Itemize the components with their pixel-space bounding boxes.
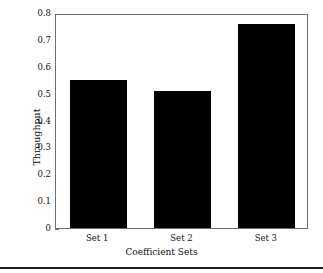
y-tick-label: 0.2 bbox=[37, 169, 51, 179]
bar bbox=[238, 24, 295, 228]
x-tick-label: Set 3 bbox=[224, 233, 308, 244]
y-tick-label: 0 bbox=[46, 223, 51, 233]
bar bbox=[70, 80, 127, 228]
bar bbox=[154, 91, 211, 228]
x-tick-label: Set 2 bbox=[139, 233, 223, 244]
x-tick-label: Set 1 bbox=[55, 233, 139, 244]
y-tick-label: 0.4 bbox=[37, 116, 51, 126]
x-axis-title: Coefficient Sets bbox=[0, 247, 323, 257]
y-tick-label: 0.7 bbox=[37, 35, 51, 45]
plot-area bbox=[55, 14, 308, 229]
bar-chart-figure: Throughput 00.10.20.30.40.50.60.70.8 Set… bbox=[0, 0, 323, 273]
y-tick-label: 0.3 bbox=[37, 142, 51, 152]
y-tick-label: 0.6 bbox=[37, 62, 51, 72]
y-tick-mark bbox=[55, 229, 59, 230]
y-tick-label: 0.1 bbox=[37, 196, 51, 206]
footer-rule bbox=[0, 267, 323, 269]
y-tick-label: 0.5 bbox=[37, 89, 51, 99]
y-tick-label: 0.8 bbox=[37, 8, 51, 18]
